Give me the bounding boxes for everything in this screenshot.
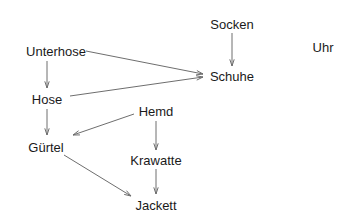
node-guertel: Gürtel <box>28 141 63 154</box>
edge-hemd-to-guertel <box>73 114 134 135</box>
node-unterhose: Unterhose <box>26 45 86 58</box>
edge-socken-to-schuhe <box>230 33 234 66</box>
arrowhead-icon <box>124 191 131 196</box>
edge-hemd-to-krawatte <box>154 121 158 150</box>
edge-hose-to-schuhe <box>70 76 203 96</box>
node-socken: Socken <box>210 18 253 31</box>
edge-hose-to-guertel <box>45 109 49 135</box>
node-jackett: Jackett <box>135 199 176 212</box>
diagram-canvas: SockenUhrUnterhoseSchuheHoseHemdGürtelKr… <box>0 0 361 224</box>
node-schuhe: Schuhe <box>210 70 254 83</box>
edge-unterhose-to-schuhe <box>86 51 203 75</box>
edge-unterhose-to-hose <box>45 61 49 88</box>
edge-krawatte-to-jackett <box>154 169 158 194</box>
node-uhr: Uhr <box>313 41 334 54</box>
edges-layer <box>0 0 361 224</box>
node-hemd: Hemd <box>139 105 174 118</box>
edge-guertel-to-jackett <box>64 155 131 196</box>
node-hose: Hose <box>32 93 62 106</box>
node-krawatte: Krawatte <box>130 154 181 167</box>
